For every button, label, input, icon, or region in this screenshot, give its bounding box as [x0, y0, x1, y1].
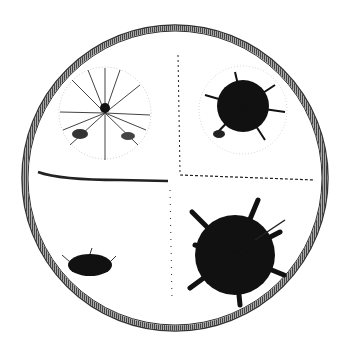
petri-dish-illustration [0, 0, 349, 351]
